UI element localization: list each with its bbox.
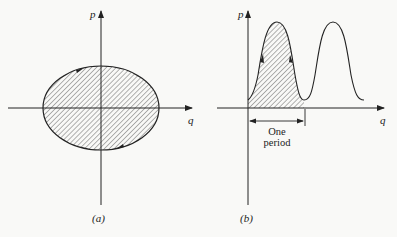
p-label-a: p [89, 8, 96, 20]
q-label-b: q [380, 114, 386, 126]
period-arrow-left-icon [249, 119, 256, 124]
hatched-period-area [248, 22, 304, 108]
caption-a: (a) [92, 212, 105, 225]
period-arrow-right-icon [297, 119, 304, 124]
panel-b: One period p q (b) [217, 8, 386, 225]
period-label-line2: period [264, 137, 292, 148]
phase-space-figure: p q (a) One period p q (b) [0, 0, 397, 237]
panel-a: p q (a) [8, 8, 194, 225]
q-label-a: q [188, 114, 194, 126]
caption-b: (b) [240, 212, 253, 225]
p-label-b: p [237, 8, 244, 20]
period-label-line1: One [268, 126, 286, 137]
